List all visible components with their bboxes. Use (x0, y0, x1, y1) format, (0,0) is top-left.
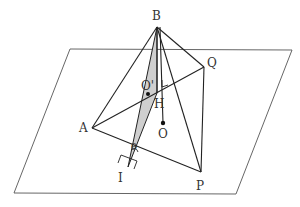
label-theta: θ (131, 141, 137, 152)
label-Q: Q (207, 56, 217, 70)
label-O: O (158, 127, 168, 141)
right-angle-mark-left (118, 155, 129, 163)
edge-AP (92, 128, 201, 172)
label-A: A (78, 121, 88, 135)
label-B: B (152, 9, 161, 23)
label-H: H (154, 97, 164, 111)
geometry-diagram: B Q A P O H I O' θ (0, 0, 300, 207)
point-O (161, 121, 165, 125)
label-I: I (118, 171, 123, 185)
edge-BQ (157, 27, 204, 67)
right-angle-mark-H (162, 80, 168, 87)
label-P: P (196, 179, 204, 193)
label-O-prime: O' (141, 79, 154, 93)
edge-QP (201, 67, 204, 172)
